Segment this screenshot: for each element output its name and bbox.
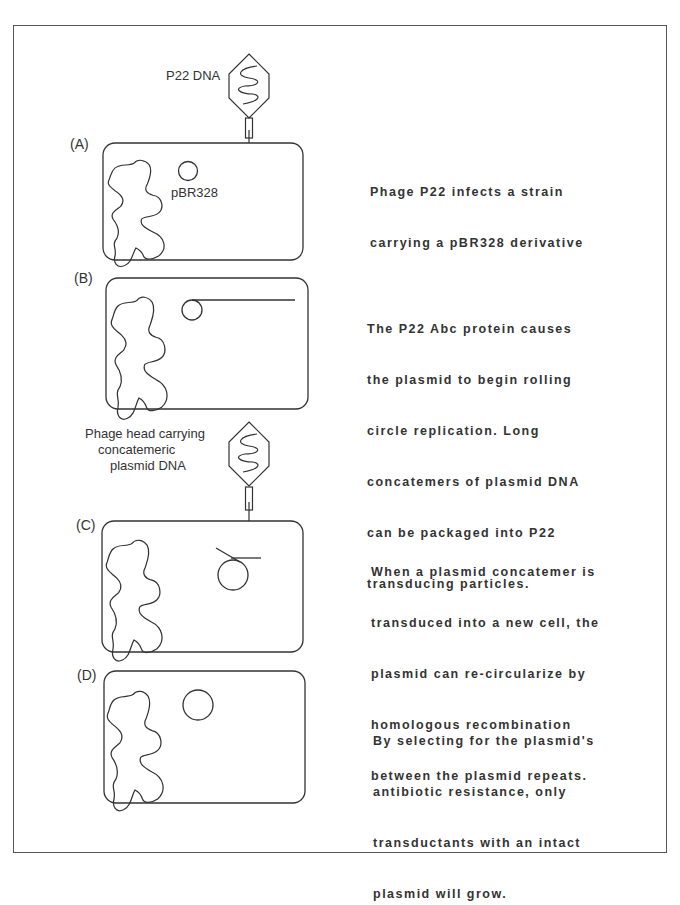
- chromosome-d-icon: [107, 691, 163, 810]
- description-line: transduced into a new cell, the: [371, 615, 599, 632]
- phage-dna-coil-icon: [239, 434, 258, 472]
- description-line: When a plasmid concatemer is: [371, 564, 599, 581]
- panel-label-b: (B): [74, 270, 93, 286]
- description-line: circle replication. Long: [367, 423, 580, 440]
- cell-a: [103, 143, 303, 266]
- cell-envelope-c: [102, 521, 303, 652]
- plasmid-a-icon: [179, 162, 198, 181]
- chromosome-c-icon: [106, 540, 162, 661]
- cell-d: [104, 671, 305, 811]
- cell-envelope-b: [106, 278, 308, 409]
- cell-b: [106, 278, 308, 419]
- phage-head-label-line-3: plasmid DNA: [110, 458, 186, 474]
- description-line: By selecting for the plasmid's: [373, 733, 595, 750]
- description-line: carrying a pBR328 derivative: [370, 235, 584, 252]
- description-line: antibiotic resistance, only: [373, 784, 595, 801]
- plasmid-d-icon: [183, 690, 213, 720]
- phage-head-label-line-1: Phage head carrying: [85, 426, 205, 442]
- phage-dna-coil-icon: [239, 66, 258, 104]
- plasmid-b-icon: [182, 300, 202, 320]
- phage-head-label-line-2: concatemeric: [98, 442, 175, 458]
- cell-envelope-a: [103, 143, 303, 260]
- description-a: Phage P22 infects a strain carrying a pB…: [370, 150, 584, 269]
- panel-label-a: (A): [70, 136, 89, 152]
- description-line: concatemers of plasmid DNA: [367, 474, 580, 491]
- description-d: By selecting for the plasmid's antibioti…: [373, 699, 595, 905]
- panel-label-c: (C): [76, 517, 95, 533]
- chromosome-b-icon: [111, 297, 167, 419]
- description-line: transductants with an intact: [373, 835, 595, 852]
- description-line: The P22 Abc protein causes: [367, 321, 580, 338]
- cell-c: [102, 521, 303, 661]
- chromosome-a-icon: [108, 160, 164, 266]
- phage-p22: [229, 54, 269, 143]
- description-line: Phage P22 infects a strain: [370, 184, 584, 201]
- phage-p22-dna-label: P22 DNA: [166, 68, 220, 84]
- plasmid-c-icon: [218, 560, 248, 590]
- panel-label-d: (D): [77, 667, 96, 683]
- plasmid-c-free-end: [216, 548, 240, 562]
- description-line: plasmid will grow.: [373, 886, 595, 903]
- description-line: the plasmid to begin rolling: [367, 372, 580, 389]
- description-line: plasmid can re-circularize by: [371, 666, 599, 683]
- phage-transducing-particle: [229, 422, 269, 521]
- plasmid-label-pbr328: pBR328: [171, 185, 218, 201]
